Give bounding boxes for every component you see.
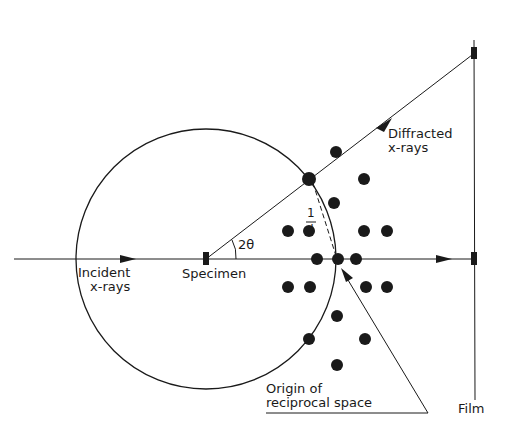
d-numerator: 1: [307, 206, 315, 220]
incident-arrow-icon: [120, 255, 136, 263]
incident-label: Incident x-rays: [78, 266, 130, 294]
diffracted-label: Diffracted x-rays: [388, 127, 452, 155]
film-spot-direct: [471, 252, 477, 265]
diffracted-label-line1: Diffracted: [388, 127, 452, 141]
origin-label: Origin of reciprocal space: [266, 382, 372, 410]
angle-label: 2θ: [238, 238, 254, 252]
film-spot-diffracted: [471, 47, 477, 59]
specimen-marker: [203, 252, 209, 265]
origin-arrow-icon: [341, 268, 353, 282]
origin-label-line1: Origin of: [266, 382, 372, 396]
film-line: [474, 40, 475, 400]
origin-label-line2: reciprocal space: [266, 396, 372, 410]
ewald-diagram: [0, 0, 512, 427]
reciprocal-vector-dashed: [313, 183, 336, 256]
specimen-label: Specimen: [182, 267, 246, 281]
d-denominator: d: [306, 223, 314, 237]
angle-arc: [232, 240, 236, 259]
incident-label-line2: x-rays: [78, 280, 130, 294]
film-label: Film: [458, 402, 484, 416]
transmitted-arrow-icon: [436, 255, 452, 263]
diffracted-label-line2: x-rays: [388, 141, 452, 155]
incident-label-line1: Incident: [78, 266, 130, 280]
